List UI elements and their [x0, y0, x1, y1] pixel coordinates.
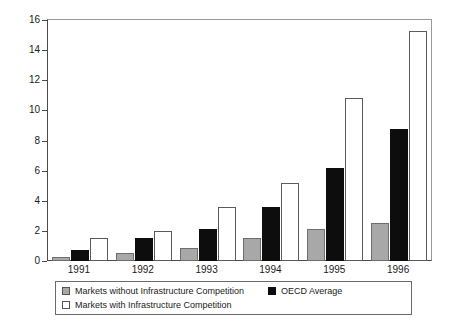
y-tick-label: 0 — [34, 256, 40, 266]
y-tick-label: 12 — [29, 75, 40, 85]
gray-swatch-icon — [62, 287, 70, 295]
x-axis: 199119921993199419951996 — [47, 262, 432, 280]
bar — [307, 229, 325, 261]
white-swatch-icon — [62, 301, 70, 309]
x-tick-label: 1994 — [259, 264, 281, 275]
x-tick-label: 1993 — [195, 264, 217, 275]
bars-layer — [48, 20, 431, 261]
y-tick-label: 14 — [29, 45, 40, 55]
bar — [371, 223, 389, 261]
x-tick-label: 1991 — [68, 264, 90, 275]
legend-item-markets-with: Markets with Infrastructure Competition — [62, 300, 232, 310]
y-axis: 0246810121416 — [0, 0, 47, 325]
bar — [345, 98, 363, 261]
legend-label: Markets with Infrastructure Competition — [75, 300, 232, 310]
bar — [135, 238, 153, 261]
y-tick-label: 16 — [29, 15, 40, 25]
bar — [199, 229, 217, 261]
legend-item-markets-without: Markets without Infrastructure Competiti… — [62, 286, 244, 296]
x-tick-label: 1995 — [323, 264, 345, 275]
x-tick-label: 1992 — [132, 264, 154, 275]
y-tick-label: 6 — [34, 166, 40, 176]
x-tick-label: 1996 — [387, 264, 409, 275]
y-tick-label: 4 — [34, 196, 40, 206]
bar — [218, 207, 236, 261]
bar — [243, 238, 261, 261]
chart-legend: Markets without Infrastructure Competiti… — [55, 281, 412, 315]
bar — [409, 31, 427, 261]
bar — [262, 207, 280, 261]
bar — [180, 248, 198, 261]
bar-chart: 0246810121416 199119921993199419951996 M… — [0, 0, 451, 325]
y-tick-label: 8 — [34, 136, 40, 146]
bar — [390, 129, 408, 261]
legend-label: Markets without Infrastructure Competiti… — [75, 286, 244, 296]
bar — [71, 250, 89, 261]
bar — [281, 183, 299, 261]
bar — [52, 257, 70, 261]
bar — [154, 231, 172, 261]
bar — [90, 238, 108, 261]
legend-item-oecd-average: OECD Average — [268, 286, 342, 296]
legend-label: OECD Average — [281, 286, 342, 296]
black-swatch-icon — [268, 287, 276, 295]
y-tick-label: 2 — [34, 226, 40, 236]
bar — [326, 168, 344, 261]
bar — [116, 253, 134, 261]
y-tick-label: 10 — [29, 105, 40, 115]
